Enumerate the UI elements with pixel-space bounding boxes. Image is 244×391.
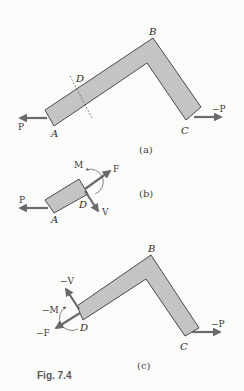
point-label-c: C — [181, 125, 189, 136]
force-label-f: F — [113, 164, 119, 174]
point-label-d-b: D — [78, 199, 87, 210]
point-label-b-c: B — [147, 243, 155, 254]
force-label-neg-p: −P — [212, 104, 226, 114]
point-label-c-c: C — [180, 341, 188, 352]
force-label-neg-p-c: −P — [211, 319, 225, 329]
figure-caption: Fig. 7.4 — [37, 370, 72, 381]
cut-member-c — [77, 255, 199, 336]
moment-label-neg-m: −M — [42, 305, 59, 315]
bent-member-a — [45, 38, 201, 126]
force-label-p-b: P — [19, 195, 25, 205]
panel-label-b: (b) — [139, 188, 153, 199]
panel-c: B D C −V −M −F −P (c) — [36, 243, 225, 371]
force-label-neg-f: −F — [36, 328, 50, 338]
force-arrow-neg-v — [66, 289, 79, 309]
panel-a: B D A C P −P (a) — [18, 26, 226, 155]
panel-label-a: (a) — [139, 144, 153, 155]
figure-canvas: B D A C P −P (a) M F V D A P (b) B D C −… — [0, 0, 244, 391]
point-label-a-b: A — [50, 214, 58, 225]
force-arrow-f — [85, 171, 110, 189]
moment-label-m: M — [74, 160, 83, 170]
point-label-a: A — [50, 128, 58, 139]
force-label-neg-v: −V — [60, 276, 75, 286]
panel-label-c: (c) — [137, 360, 151, 371]
point-label-d-c: D — [79, 322, 88, 333]
point-label-b: B — [148, 26, 156, 37]
panel-b: M F V D A P (b) — [19, 160, 153, 225]
force-label-p: P — [18, 122, 24, 132]
point-label-d: D — [75, 73, 84, 84]
force-label-v: V — [101, 207, 109, 217]
